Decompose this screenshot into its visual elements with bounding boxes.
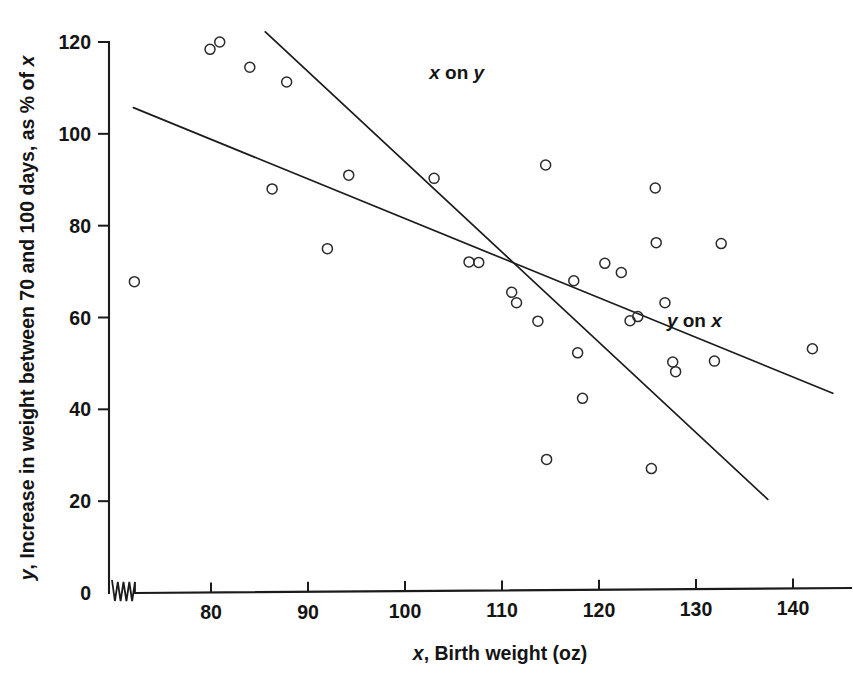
y-tick-label: 80	[69, 215, 91, 237]
y-tick-label: 20	[69, 490, 91, 512]
data-point	[245, 62, 255, 72]
data-point	[205, 44, 215, 54]
x-tick-label: 130	[680, 598, 713, 620]
data-point	[282, 77, 292, 87]
data-point	[344, 170, 354, 180]
regression-line-x-on-y	[265, 32, 767, 499]
data-point	[474, 257, 484, 267]
data-point	[807, 344, 817, 354]
data-point	[322, 244, 332, 254]
regression-line-labels: x on yy on x	[428, 62, 723, 331]
x-tick-label: 110	[486, 599, 518, 621]
line-label-y-on-x: y on x	[666, 310, 723, 331]
axes	[109, 42, 851, 601]
y-tick-label: 120	[58, 31, 91, 53]
x-tick-label: 140	[777, 597, 810, 619]
data-points	[129, 37, 817, 474]
x-tick-label: 100	[389, 600, 422, 622]
data-point	[215, 37, 225, 47]
data-point	[542, 454, 552, 464]
y-tick-label: 40	[69, 398, 91, 420]
data-point	[578, 393, 588, 403]
data-point	[541, 160, 551, 170]
regression-line-y-on-x	[133, 108, 832, 394]
y-axis-title: y, Increase in weight between 70 and 100…	[16, 55, 38, 582]
data-point	[267, 184, 277, 194]
data-point	[646, 464, 656, 474]
data-point	[533, 316, 543, 326]
data-point	[651, 238, 661, 248]
data-point	[573, 348, 583, 358]
x-tick-label: 80	[200, 601, 222, 623]
line-label-x-on-y: x on y	[428, 62, 485, 83]
data-point	[716, 239, 726, 249]
data-point	[507, 287, 517, 297]
scatter-plot-figure: 0204060801001208090100110120130140 x on …	[0, 0, 853, 678]
data-point	[429, 173, 439, 183]
x-axis-line	[135, 588, 851, 593]
data-point	[616, 268, 626, 278]
x-axis-title: x, Birth weight (oz)	[412, 642, 587, 664]
x-tick-label: 90	[297, 601, 319, 623]
data-point	[650, 183, 660, 193]
data-point	[129, 277, 139, 287]
data-point	[512, 298, 522, 308]
data-point	[464, 257, 474, 267]
x-tick-label: 120	[583, 599, 616, 621]
y-tick-label: 100	[58, 123, 91, 145]
data-point	[668, 357, 678, 367]
data-point	[600, 258, 610, 268]
data-point	[709, 356, 719, 366]
data-point	[660, 298, 670, 308]
y-tick-label: 0	[80, 582, 91, 604]
x-axis-break-marker	[112, 580, 135, 601]
y-tick-label: 60	[69, 307, 91, 329]
axis-titles: x, Birth weight (oz)y, Increase in weigh…	[16, 55, 587, 664]
data-point	[671, 367, 681, 377]
plot-canvas: 0204060801001208090100110120130140 x on …	[0, 0, 853, 678]
data-point	[569, 276, 579, 286]
